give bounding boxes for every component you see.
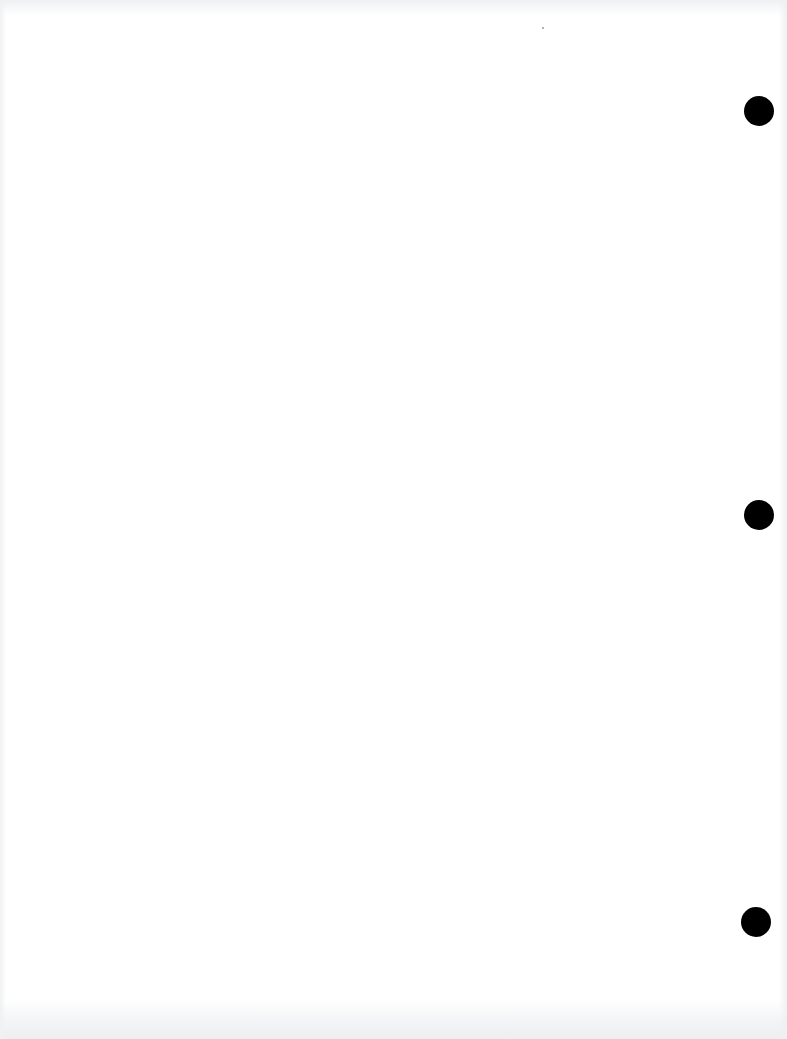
hole-punch-icon xyxy=(744,500,774,530)
scan-edge-left xyxy=(0,0,6,1039)
scan-speck xyxy=(542,27,544,29)
scan-edge-top xyxy=(0,0,787,16)
hole-punch-icon xyxy=(741,907,771,937)
scan-edge-right xyxy=(779,0,787,1039)
blank-page xyxy=(0,0,787,1039)
scan-edge-bottom xyxy=(0,999,787,1039)
hole-punch-icon xyxy=(744,96,774,126)
